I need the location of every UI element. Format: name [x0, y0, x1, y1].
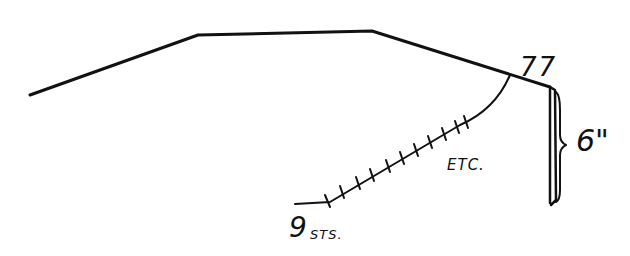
height-label: 6"	[576, 126, 609, 156]
stitch-count-label: 77	[520, 54, 557, 80]
diagram-canvas	[0, 0, 630, 256]
start-unit-label: STS.	[310, 228, 343, 241]
etc-label: ETC.	[447, 158, 485, 173]
decrease-curve	[295, 75, 510, 204]
brace	[556, 92, 566, 202]
start-count-label: 9	[289, 214, 307, 242]
outline-path	[30, 31, 550, 95]
vertical-edge	[550, 87, 556, 205]
